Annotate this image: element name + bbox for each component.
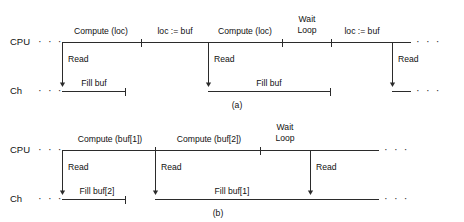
timing-diagram-figure: CPU Ch · · · · · · · · · · · · Compute (…: [0, 0, 464, 222]
panel-a-ch-row-label: Ch: [10, 85, 22, 96]
panel-b-read-1-label: Read: [68, 162, 89, 172]
panel-a-cpu-trailing-ellipsis: · · ·: [416, 35, 441, 47]
panel-b: CPU Ch · · · · · · · · · · · · Compute (…: [10, 122, 409, 218]
panel-b-read-2-label: Read: [161, 162, 182, 172]
panel-a-ch-trailing-ellipsis: · · ·: [416, 84, 441, 96]
panel-a-compute-1-label: Compute (loc): [74, 26, 128, 36]
panel-b-wait-loop-label-line2: Loop: [275, 133, 294, 143]
panel-b-ch-row-label: Ch: [10, 193, 22, 204]
panel-a-loc-assign-2-label: loc := buf: [344, 26, 380, 36]
panel-a-wait-loop-label-line2: Loop: [297, 25, 316, 35]
panel-a-fill-2-label: Fill buf: [256, 78, 282, 88]
panel-a-fill-1-label: Fill buf: [81, 78, 107, 88]
panel-b-caption: (b): [213, 208, 224, 218]
panel-b-ch-trailing-ellipsis: · · ·: [384, 192, 409, 204]
panel-a-ch-leading-ellipsis: · · ·: [38, 84, 63, 96]
diagram-canvas: CPU Ch · · · · · · · · · · · · Compute (…: [0, 0, 464, 222]
panel-b-cpu-trailing-ellipsis: · · ·: [384, 143, 409, 155]
panel-a-wait-loop-label-line1: Wait: [299, 14, 316, 24]
panel-b-read-3-label: Read: [316, 162, 337, 172]
panel-b-ch-leading-ellipsis: · · ·: [38, 192, 63, 204]
panel-b-fill-2-label: Fill buf[1]: [215, 186, 250, 196]
panel-a-cpu-row-label: CPU: [10, 36, 30, 47]
panel-a-cpu-leading-ellipsis: · · ·: [38, 35, 63, 47]
panel-b-wait-loop-label-line1: Wait: [277, 122, 294, 132]
panel-b-cpu-row-label: CPU: [10, 144, 30, 155]
panel-b-fill-1-label: Fill buf[2]: [80, 186, 115, 196]
panel-b-compute-2-label: Compute (buf[2]): [177, 134, 242, 144]
panel-a: CPU Ch · · · · · · · · · · · · Compute (…: [10, 14, 441, 110]
panel-a-compute-2-label: Compute (loc): [218, 26, 272, 36]
panel-a-loc-assign-1-label: loc := buf: [157, 26, 193, 36]
panel-a-read-1-label: Read: [68, 54, 89, 64]
panel-b-compute-1-label: Compute (buf[1]): [78, 134, 143, 144]
panel-b-cpu-leading-ellipsis: · · ·: [38, 143, 63, 155]
panel-a-read-2-label: Read: [214, 54, 235, 64]
panel-a-caption: (a): [232, 100, 243, 110]
panel-a-read-3-label: Read: [398, 54, 419, 64]
